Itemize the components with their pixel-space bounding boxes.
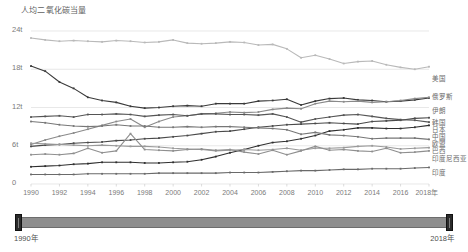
data-point [59,135,61,137]
data-point [115,145,117,147]
x-axis-tick-label: 2014 [364,189,380,197]
x-axis-tick-label: 1994 [80,189,96,197]
data-point [144,145,146,147]
legend-label-韩国[interactable]: 韩国 [432,119,446,126]
data-point [329,100,331,102]
data-point [329,134,331,136]
data-point [357,127,359,129]
data-point [186,172,188,174]
data-point [286,170,288,172]
data-point [371,121,373,123]
data-point [44,174,46,176]
data-point [44,116,46,118]
x-axis-tick-label: 1990 [23,189,39,197]
legend-label-印度尼西亚[interactable]: 印度尼西亚 [432,155,468,162]
data-point [343,63,345,65]
data-point [314,135,316,137]
data-point [101,144,103,146]
data-point [272,142,274,144]
data-point [158,114,160,116]
data-point [357,61,359,63]
data-point [44,39,46,41]
data-point [258,153,260,155]
data-point [172,172,174,174]
data-point [400,152,402,154]
data-point [300,121,302,123]
data-point [314,131,316,133]
data-point [243,151,245,153]
data-point [300,150,302,152]
data-point [343,135,345,137]
data-point [158,146,160,148]
x-axis-tick-label: 2006 [251,189,267,197]
data-point [101,41,103,43]
data-point [243,128,245,130]
data-point [59,154,61,156]
data-point [258,172,260,174]
data-point [130,125,132,127]
legend-label-欧盟[interactable]: 欧盟 [432,140,446,147]
legend-label-俄罗斯[interactable]: 俄罗斯 [432,93,453,100]
data-point [73,40,75,42]
data-point [201,105,203,107]
data-point [400,148,402,150]
data-point [385,117,387,119]
legend-label-中国[interactable]: 中国 [432,133,446,140]
legend-label-巴西[interactable]: 巴西 [432,147,446,154]
data-point [243,103,245,105]
data-point [115,150,117,152]
data-point [130,145,132,147]
year-range-slider[interactable]: 1990年 2018年 [0,200,468,252]
data-point [158,172,160,174]
data-point [201,133,203,135]
data-point [186,149,188,151]
line-chart-svg [0,0,468,200]
data-point [115,124,117,126]
data-point [229,126,231,128]
data-point [115,161,117,163]
legend-label-印度[interactable]: 印度 [432,169,446,176]
chart-screenshot: 人均二氧化碳当量 06t12t18t24t 199019921994199619… [0,0,468,252]
data-point [385,128,387,130]
data-point [158,126,160,128]
data-point [258,100,260,102]
legend-label-日本[interactable]: 日本 [432,126,446,133]
data-point [286,147,288,149]
data-point [130,114,132,116]
data-point [59,81,61,83]
series-美国 [30,37,430,70]
data-point [73,144,75,146]
slider-track[interactable] [17,217,451,228]
slider-handle-start[interactable] [15,214,22,231]
data-point [44,122,46,124]
data-point [414,68,416,70]
data-point [428,124,430,126]
data-point [400,119,402,121]
data-point [286,129,288,131]
data-point [428,147,430,149]
data-point [343,147,345,149]
data-point [144,173,146,175]
x-axis-tick-label: 2000 [165,189,181,197]
data-point [158,107,160,109]
data-point [314,103,316,105]
legend-label-伊朗[interactable]: 伊朗 [432,107,446,114]
data-point [172,136,174,138]
data-point [101,100,103,102]
data-point [428,66,430,68]
data-point [59,174,61,176]
data-point [258,149,260,151]
data-point [243,112,245,114]
data-point [343,114,345,116]
data-point [229,114,231,116]
x-axis-tick-label: 2004 [222,189,238,197]
data-point [186,135,188,137]
data-point [314,123,316,125]
data-point [400,137,402,139]
data-point [300,133,302,135]
data-point [286,116,288,118]
data-point [115,140,117,142]
slider-handle-end[interactable] [446,214,453,231]
legend-label-美国[interactable]: 美国 [432,75,446,82]
data-point [258,114,260,116]
